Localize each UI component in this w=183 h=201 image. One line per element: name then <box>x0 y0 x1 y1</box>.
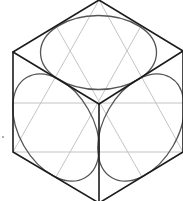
isometric-cube-diagram <box>0 0 183 201</box>
right-face-ellipse <box>80 59 183 196</box>
guide-diagonal-top-to-lower-left <box>13 0 99 152</box>
stray-dot-mark <box>2 136 4 138</box>
guide-diagonal-top-to-lower-right <box>99 0 183 152</box>
